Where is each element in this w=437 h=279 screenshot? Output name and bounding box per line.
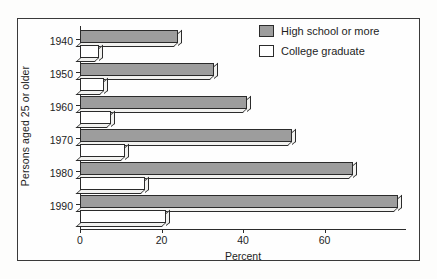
legend-swatch-icon <box>259 25 274 37</box>
bar-face <box>80 111 111 124</box>
legend-label: High school or more <box>281 25 379 37</box>
bar-depth-bottom <box>76 124 112 128</box>
x-axis-tick <box>80 229 81 233</box>
bar-depth-side <box>125 144 129 160</box>
bar-depth-side <box>214 63 218 79</box>
bar-depth-bottom <box>76 58 99 62</box>
bar-1980-college[interactable] <box>80 177 145 190</box>
legend-swatch-icon <box>259 45 274 57</box>
bar-depth-side <box>104 78 108 94</box>
bar-face <box>80 210 166 223</box>
y-axis-tick-label: 1940 <box>50 35 73 47</box>
bar-face <box>80 96 247 109</box>
bar-depth-side <box>292 129 296 145</box>
y-axis-tick-label: 1980 <box>50 167 73 179</box>
x-axis-tick <box>325 229 326 233</box>
bar-face <box>80 177 145 190</box>
bar-group-1960: 1960 <box>80 96 418 129</box>
bar-depth-side <box>178 30 182 46</box>
bar-group-1950: 1950 <box>80 63 418 96</box>
bar-depth-side <box>145 177 149 193</box>
x-axis-tick-label: 40 <box>237 234 249 246</box>
bar-1990-college[interactable] <box>80 210 166 223</box>
bar-face <box>80 30 178 43</box>
bar-depth-bottom <box>76 190 146 194</box>
bar-face <box>80 63 214 76</box>
bar-1960-high-school[interactable] <box>80 96 247 109</box>
bar-depth-bottom <box>76 223 166 227</box>
bar-1960-college[interactable] <box>80 111 111 124</box>
bar-face <box>80 129 292 142</box>
x-axis-tick <box>243 229 244 233</box>
legend-label: College graduate <box>281 45 365 57</box>
bar-1970-college[interactable] <box>80 144 125 157</box>
bar-face <box>80 144 125 157</box>
bar-face <box>80 45 99 58</box>
x-axis-tick-label: 0 <box>77 234 83 246</box>
bar-group-1980: 1980 <box>80 162 418 195</box>
chart-figure: Persons aged 25 or older 194019501960197… <box>0 0 437 279</box>
bar-depth-bottom <box>76 91 105 95</box>
bar-1990-high-school[interactable] <box>80 195 398 208</box>
y-axis-tick-label: 1960 <box>50 101 73 113</box>
bar-1970-high-school[interactable] <box>80 129 292 142</box>
x-axis-tick <box>162 229 163 233</box>
bar-depth-side <box>99 45 103 61</box>
bar-1950-high-school[interactable] <box>80 63 214 76</box>
bar-1940-college[interactable] <box>80 45 99 58</box>
y-axis-tick-label: 1970 <box>50 134 73 146</box>
legend-item-cg[interactable]: College graduate <box>259 44 409 57</box>
bar-face <box>80 195 398 208</box>
bar-depth-side <box>247 96 251 112</box>
bar-1940-high-school[interactable] <box>80 30 178 43</box>
x-axis-tick-label: 20 <box>156 234 168 246</box>
bar-1950-college[interactable] <box>80 78 104 91</box>
bar-group-1990: 1990 <box>80 195 418 228</box>
x-axis-title: Percent <box>80 250 406 262</box>
bar-depth-side <box>353 162 357 178</box>
bar-depth-side <box>166 210 170 226</box>
y-axis-tick-label: 1990 <box>50 200 73 212</box>
bar-depth-bottom <box>76 157 125 161</box>
bar-depth-side <box>398 195 402 211</box>
chart-legend: High school or moreCollege graduate <box>259 24 409 64</box>
legend-item-hs[interactable]: High school or more <box>259 24 409 37</box>
bar-face <box>80 162 353 175</box>
bar-group-1970: 1970 <box>80 129 418 162</box>
y-axis-title: Persons aged 25 or older <box>19 41 31 211</box>
y-axis-tick-label: 1950 <box>50 68 73 80</box>
bar-depth-side <box>111 111 115 127</box>
bar-1980-high-school[interactable] <box>80 162 353 175</box>
bar-face <box>80 78 104 91</box>
x-axis-tick-label: 60 <box>319 234 331 246</box>
